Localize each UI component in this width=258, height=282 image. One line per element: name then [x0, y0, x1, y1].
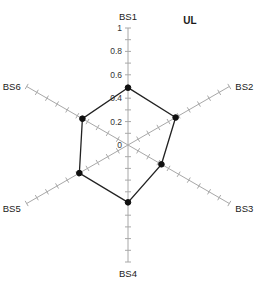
tick-mark — [187, 178, 190, 183]
axis-label-bs1: BS1 — [119, 11, 137, 22]
tick-mark — [86, 166, 89, 171]
tick-mark — [228, 84, 231, 89]
axis-label-bs6: BS6 — [3, 81, 21, 92]
radar-chart-canvas: BS1 BS2 BS3 BS4 BS5 BS6 00.20.40.60.81 U… — [0, 0, 258, 282]
tick-mark — [106, 131, 109, 136]
data-point-bs6 — [80, 116, 86, 122]
tick-mark — [137, 137, 140, 142]
tick-mark — [228, 201, 231, 206]
tick-mark — [35, 90, 38, 95]
data-point-bs2 — [173, 115, 179, 121]
tick-mark — [25, 84, 28, 89]
tick-mark — [177, 172, 180, 177]
radial-tick-label: 1 — [117, 23, 122, 33]
axis-label-bs3: BS3 — [235, 203, 253, 214]
tick-mark — [157, 125, 160, 130]
tick-mark — [147, 131, 150, 136]
tick-mark — [187, 107, 190, 112]
axis-label-bs4: BS4 — [119, 268, 137, 279]
axis-label-bs5: BS5 — [3, 203, 21, 214]
tick-mark — [45, 189, 48, 194]
radial-tick-label: 0 — [117, 140, 122, 150]
tick-mark — [35, 195, 38, 200]
tick-mark — [86, 119, 89, 124]
radial-tick-label: 0.6 — [110, 70, 122, 80]
tick-mark — [137, 148, 140, 153]
radar-chart: BS1 BS2 BS3 BS4 BS5 BS6 00.20.40.60.81 U… — [0, 0, 258, 282]
tick-mark — [25, 201, 28, 206]
tick-mark — [208, 189, 211, 194]
radial-tick-label: 0.8 — [110, 46, 122, 56]
data-point-bs3 — [159, 162, 165, 168]
tick-mark — [208, 96, 211, 101]
tick-mark — [197, 183, 200, 188]
tick-mark — [56, 183, 59, 188]
radial-tick-labels-group: 00.20.40.60.81 — [110, 23, 122, 150]
tick-mark — [167, 119, 170, 124]
tick-mark — [197, 101, 200, 106]
tick-mark — [76, 113, 79, 118]
tick-mark — [96, 160, 99, 165]
tick-mark — [56, 101, 59, 106]
tick-mark — [66, 107, 69, 112]
radial-tick-label: 0.4 — [110, 93, 122, 103]
tick-mark — [167, 166, 170, 171]
axis-label-bs2: BS2 — [235, 81, 253, 92]
tick-mark — [66, 178, 69, 183]
tick-mark — [147, 154, 150, 159]
chart-title: UL — [183, 15, 196, 26]
tick-mark — [106, 154, 109, 159]
tick-mark — [218, 195, 221, 200]
tick-mark — [96, 125, 99, 130]
tick-mark — [218, 90, 221, 95]
data-point-bs5 — [77, 170, 83, 176]
data-point-bs4 — [125, 200, 131, 206]
radial-tick-label: 0.2 — [110, 117, 122, 127]
data-point-bs1 — [125, 85, 131, 91]
tick-mark — [45, 96, 48, 101]
